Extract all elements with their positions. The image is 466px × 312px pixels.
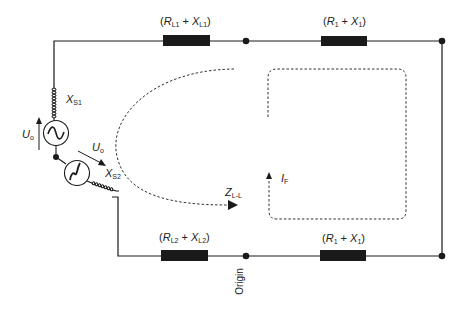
label-u0-1: Uo — [22, 128, 34, 141]
inductor-xs2 — [87, 181, 119, 191]
loop-path-if — [266, 69, 406, 219]
top-wire — [54, 41, 442, 256]
resistor-top-left — [163, 35, 210, 46]
inductor-xs1 — [52, 88, 56, 121]
resistor-bottom-right — [320, 250, 366, 261]
node-top-right — [439, 38, 446, 45]
node-top-mid — [243, 38, 250, 45]
resistor-top-right — [321, 36, 367, 46]
circuit-diagram — [0, 0, 466, 312]
label-u0-2: Uo — [92, 141, 104, 154]
label-xs2: XS2 — [105, 167, 121, 180]
node-origin — [243, 253, 250, 260]
ac-source-2 — [65, 161, 90, 186]
resistor-bottom-left — [161, 250, 208, 261]
label-bottom-right-impedance: (R1 + X1) — [322, 232, 365, 245]
label-xs1: XS1 — [66, 93, 82, 106]
label-origin: Origin — [234, 268, 245, 295]
node-bottom-right — [439, 253, 446, 260]
bottom-wire — [112, 197, 442, 256]
loop-path-zll — [116, 69, 238, 210]
ac-source-1 — [44, 121, 69, 146]
label-top-right-impedance: (R1 + X1) — [323, 15, 366, 28]
voltage-arrow-1 — [36, 117, 42, 150]
label-top-left-impedance: (RL1 + XL1) — [160, 15, 211, 28]
label-bottom-left-impedance: (RL2 + XL2) — [159, 231, 210, 244]
label-zll: ZL-L — [225, 186, 242, 199]
label-if: IF — [281, 172, 288, 185]
